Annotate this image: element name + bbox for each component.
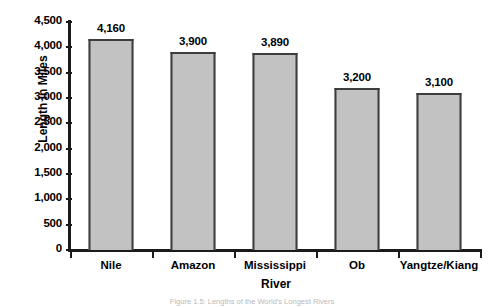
bar-value-label: 3,100 bbox=[425, 76, 453, 88]
bar-slot bbox=[398, 22, 480, 250]
y-axis-tick-label: 1,000 bbox=[34, 191, 62, 203]
x-axis-tick-mark bbox=[234, 251, 236, 258]
bar[interactable] bbox=[171, 52, 216, 250]
x-axis-tick-mark bbox=[480, 251, 482, 258]
y-axis-tick-label: 0 bbox=[56, 242, 62, 254]
bar-slot bbox=[70, 22, 152, 250]
bar-slot bbox=[316, 22, 398, 250]
bar-chart-figure: 05001,0001,5002,0002,5003,0003,5004,0004… bbox=[0, 0, 504, 307]
x-axis-tick-label: Yangtze/Kiang bbox=[384, 259, 494, 271]
x-axis-title: River bbox=[0, 277, 504, 291]
bar-slot bbox=[234, 22, 316, 250]
x-axis-tick-mark bbox=[398, 251, 400, 258]
bar-value-label: 4,160 bbox=[97, 22, 125, 34]
bar[interactable] bbox=[335, 88, 380, 250]
x-axis-tick-mark bbox=[152, 251, 154, 258]
bar-slot bbox=[152, 22, 234, 250]
bar-value-label: 3,890 bbox=[261, 36, 289, 48]
x-axis-tick-mark bbox=[316, 251, 318, 258]
bar-value-label: 3,900 bbox=[179, 35, 207, 47]
bar-value-label: 3,200 bbox=[343, 71, 371, 83]
bar[interactable] bbox=[253, 53, 298, 250]
figure-caption: Figure 1.5: Lengths of the World's Longe… bbox=[0, 297, 504, 306]
bar[interactable] bbox=[417, 93, 462, 250]
y-axis-title: Length in Miles bbox=[36, 24, 50, 174]
x-axis-title-text: River bbox=[261, 277, 291, 291]
y-axis-tick-label: 500 bbox=[43, 217, 62, 229]
x-axis-tick-mark bbox=[70, 251, 72, 258]
bar[interactable] bbox=[89, 39, 134, 250]
